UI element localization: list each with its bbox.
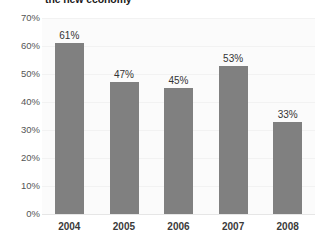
bar (273, 122, 302, 214)
y-axis-tick-label: 20% (2, 153, 40, 163)
bar (110, 82, 139, 214)
x-axis-tick-label: 2008 (260, 221, 315, 233)
bar-value-label: 53% (206, 53, 261, 64)
bar-group: 61% (42, 18, 97, 214)
y-axis-tick-label: 50% (2, 69, 40, 79)
bar-value-label: 45% (151, 75, 206, 86)
bar-group: 47% (97, 18, 152, 214)
x-axis: 20042005200620072008 (42, 221, 315, 237)
x-axis-tick-label: 2006 (151, 221, 206, 233)
axis-baseline (42, 214, 315, 215)
y-axis-tick-label: 0% (2, 209, 40, 219)
bar-value-label: 47% (97, 69, 152, 80)
bar (164, 88, 193, 214)
y-axis-tick-label: 40% (2, 97, 40, 107)
y-axis: 70%60%50%40%30%20%10%0% (0, 0, 40, 246)
bar (55, 43, 84, 214)
y-axis-tick-label: 30% (2, 125, 40, 135)
bar-value-label: 61% (42, 30, 97, 41)
x-axis-tick-label: 2007 (206, 221, 261, 233)
bar-chart: the new economy 70%60%50%40%30%20%10%0% … (0, 0, 319, 246)
x-axis-tick-label: 2005 (97, 221, 152, 233)
y-axis-tick-label: 60% (2, 41, 40, 51)
chart-title: the new economy (45, 0, 285, 5)
plot-area: 61%47%45%53%33% (42, 18, 315, 214)
x-axis-tick-label: 2004 (42, 221, 97, 233)
bar-value-label: 33% (260, 109, 315, 120)
bar (219, 66, 248, 214)
bar-group: 53% (206, 18, 261, 214)
bar-group: 45% (151, 18, 206, 214)
y-axis-tick-label: 70% (2, 13, 40, 23)
y-axis-tick-label: 10% (2, 181, 40, 191)
bar-group: 33% (260, 18, 315, 214)
